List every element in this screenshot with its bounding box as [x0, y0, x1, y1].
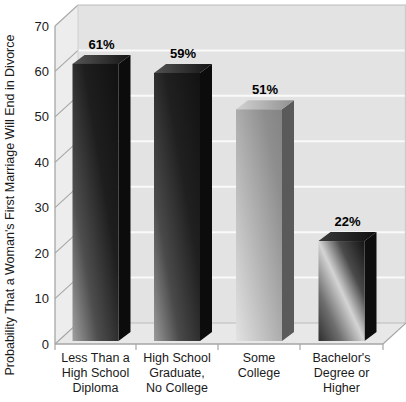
ytick-label-20: 20 [35, 246, 49, 261]
category-label-2-line-0: Some [243, 351, 276, 365]
bar-side-face-3 [365, 232, 377, 341]
ytick-label-50: 50 [35, 109, 49, 124]
bar-side-face-0 [119, 55, 131, 341]
bar-value-label-1: 59% [170, 46, 196, 61]
category-label-3-line-0: Bachelor's [313, 351, 371, 365]
chart-canvas: 01020304050607061%59%51%22%Less Than aHi… [0, 0, 406, 402]
bar-value-label-0: 61% [88, 37, 114, 52]
category-label-1-line-2: No College [146, 381, 208, 395]
category-label-1-line-1: Graduate, [149, 366, 205, 380]
bar-side-face-1 [200, 64, 212, 341]
ytick-label-60: 60 [35, 64, 49, 79]
bar-front-face-2 [236, 109, 282, 341]
bar-front-face-3 [319, 241, 365, 341]
bar-front-face-1 [154, 73, 200, 341]
bar-side-face-2 [282, 100, 294, 341]
bar-front-face-0 [73, 64, 119, 341]
category-label-0-line-1: High School [62, 366, 129, 380]
bar-value-label-2: 51% [252, 82, 278, 97]
category-label-0-line-0: Less Than a [61, 351, 130, 365]
ytick-label-30: 30 [35, 200, 49, 215]
category-label-2-line-1: College [238, 366, 280, 380]
category-label-0-line-2: Diploma [73, 381, 119, 395]
y-axis-title: Probability That a Woman's First Marriag… [3, 34, 17, 375]
category-label-3-line-1: Degree or [314, 366, 370, 380]
ytick-label-10: 10 [35, 291, 49, 306]
divorce-probability-bar-chart: 01020304050607061%59%51%22%Less Than aHi… [0, 0, 406, 402]
category-label-3-line-2: Higher [323, 381, 360, 395]
ytick-label-40: 40 [35, 155, 49, 170]
category-label-1-line-0: High School [143, 351, 210, 365]
ytick-label-70: 70 [35, 19, 49, 34]
bar-value-label-3: 22% [334, 214, 360, 229]
ytick-label-0: 0 [42, 337, 49, 352]
